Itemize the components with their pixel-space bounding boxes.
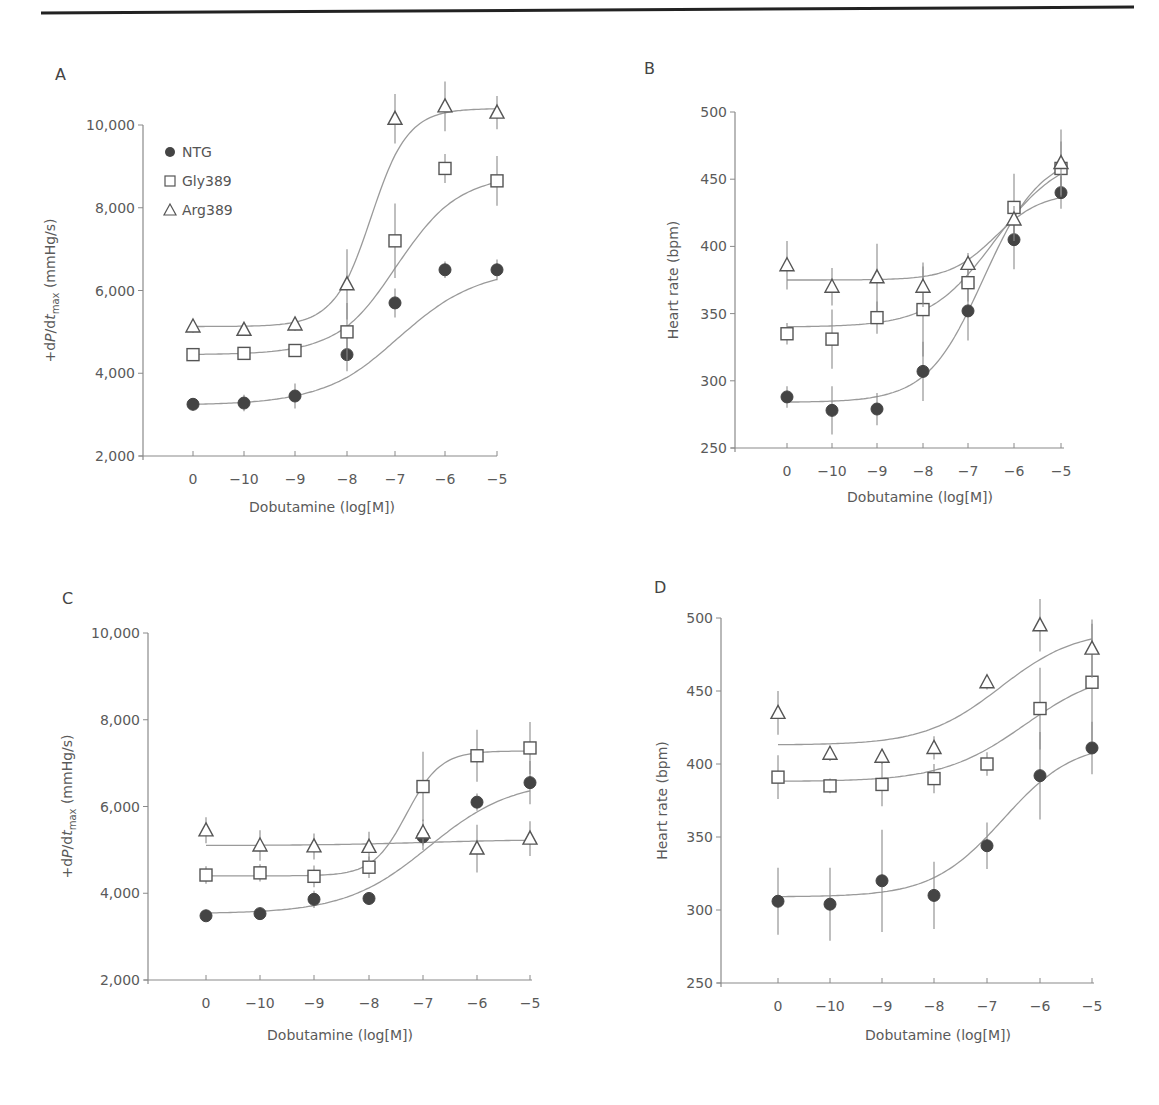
x-tick-label: −7	[385, 471, 406, 487]
data-point-gly389	[781, 328, 793, 340]
data-point-arg389	[916, 279, 930, 292]
data-point-gly389	[200, 869, 212, 881]
y-axis-title: Heart rate (bpm)	[665, 221, 681, 340]
x-tick-label: −6	[1030, 998, 1051, 1014]
data-point-ntg	[826, 404, 838, 416]
open-triangle-icon	[164, 204, 176, 215]
data-point-arg389	[186, 319, 200, 332]
x-axis-title: Dobutamine (log[M])	[847, 489, 993, 505]
data-point-ntg	[200, 910, 212, 922]
x-tick-label: −6	[435, 471, 456, 487]
legend-item-ntg: NTG	[165, 144, 212, 160]
data-point-arg389	[870, 270, 884, 283]
data-point-arg389	[1033, 618, 1047, 631]
x-tick-label: −10	[815, 998, 845, 1014]
figure-canvas: A2,0004,0006,0008,00010,0000−10−9−8−7−6−…	[0, 0, 1159, 1105]
data-point-arg389	[416, 825, 430, 838]
data-point-ntg	[491, 264, 503, 276]
data-point-arg389	[927, 740, 941, 753]
data-point-gly389	[341, 326, 353, 338]
fit-curve-gly389	[206, 751, 530, 876]
x-tick-label: −9	[872, 998, 893, 1014]
series-gly389	[187, 154, 503, 361]
x-tick-label: −9	[867, 463, 888, 479]
x-tick-label: −6	[1004, 463, 1025, 479]
panel-letter: D	[654, 578, 666, 597]
x-tick-label: −9	[285, 471, 306, 487]
data-point-ntg	[824, 898, 836, 910]
x-tick-label: −7	[413, 995, 434, 1011]
series-arg389	[780, 129, 1068, 310]
y-tick-label: 450	[700, 171, 727, 187]
x-tick-label: 0	[774, 998, 783, 1014]
fit-curve-arg389	[193, 109, 497, 327]
header-rule	[41, 7, 1134, 13]
data-point-ntg	[238, 397, 250, 409]
data-point-gly389	[417, 781, 429, 793]
data-point-ntg	[524, 777, 536, 789]
legend-label: Arg389	[182, 202, 233, 218]
figure: A2,0004,0006,0008,00010,0000−10−9−8−7−6−…	[0, 0, 1159, 1105]
y-tick-label: 250	[686, 975, 713, 991]
data-point-gly389	[871, 312, 883, 324]
x-axis-title: Dobutamine (log[M])	[249, 499, 395, 515]
data-point-ntg	[962, 305, 974, 317]
panel-c-contractility-chart: C2,0004,0006,0008,00010,0000−10−9−8−7−6−…	[59, 589, 540, 1043]
data-point-arg389	[253, 838, 267, 851]
data-point-gly389	[1034, 703, 1046, 715]
data-point-gly389	[826, 333, 838, 345]
data-point-ntg	[871, 403, 883, 415]
data-point-ntg	[1034, 770, 1046, 782]
data-point-gly389	[928, 773, 940, 785]
panel-letter: C	[62, 589, 73, 608]
data-point-gly389	[524, 742, 536, 754]
y-tick-label: 500	[686, 610, 713, 626]
data-point-ntg	[981, 840, 993, 852]
x-axis-title: Dobutamine (log[M])	[267, 1027, 413, 1043]
data-point-ntg	[439, 264, 451, 276]
x-tick-label: 0	[202, 995, 211, 1011]
data-point-arg389	[523, 831, 537, 844]
panel-d-heart-rate-chart: D2503003504004505000−10−9−8−7−6−5Dobutam…	[654, 578, 1102, 1043]
y-tick-label: 350	[700, 306, 727, 322]
y-tick-label: 300	[700, 373, 727, 389]
y-tick-label: 350	[686, 829, 713, 845]
x-tick-label: −9	[304, 995, 325, 1011]
data-point-gly389	[962, 277, 974, 289]
data-point-ntg	[308, 893, 320, 905]
data-point-gly389	[981, 758, 993, 770]
filled-circle-icon	[165, 147, 175, 157]
data-point-arg389	[875, 749, 889, 762]
fit-curve-ntg	[193, 279, 497, 404]
series-gly389	[781, 142, 1067, 369]
y-tick-label: 8,000	[100, 712, 140, 728]
data-point-ntg	[254, 908, 266, 920]
data-point-arg389	[362, 839, 376, 852]
data-point-ntg	[289, 390, 301, 402]
y-tick-label: 450	[686, 683, 713, 699]
data-point-ntg	[917, 365, 929, 377]
legend-label: NTG	[182, 144, 212, 160]
data-point-ntg	[772, 895, 784, 907]
data-point-ntg	[781, 391, 793, 403]
y-axis-title: +dP/dtmax (mmHg/s)	[42, 218, 61, 362]
series-gly389	[200, 722, 536, 887]
data-point-arg389	[1085, 641, 1099, 654]
y-tick-label: 300	[686, 902, 713, 918]
y-tick-label: 2,000	[100, 972, 140, 988]
x-tick-label: −5	[487, 471, 508, 487]
y-tick-label: 10,000	[91, 625, 140, 641]
data-point-arg389	[490, 105, 504, 118]
data-point-ntg	[389, 297, 401, 309]
x-tick-label: −8	[924, 998, 945, 1014]
legend-item-arg389: Arg389	[164, 202, 233, 218]
panel-b-heart-rate-chart: B2503003504004505000−10−9−8−7−6−5Dobutam…	[644, 59, 1071, 505]
x-tick-label: 0	[189, 471, 198, 487]
x-axis-title: Dobutamine (log[M])	[865, 1027, 1011, 1043]
y-tick-label: 4,000	[100, 885, 140, 901]
data-point-gly389	[289, 344, 301, 356]
legend-item-gly389: Gly389	[165, 173, 232, 189]
panel-a-contractility-chart: A2,0004,0006,0008,00010,0000−10−9−8−7−6−…	[42, 65, 507, 515]
data-point-arg389	[438, 99, 452, 112]
y-tick-label: 2,000	[95, 448, 135, 464]
